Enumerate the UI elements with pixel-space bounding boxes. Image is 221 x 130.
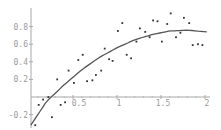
fit-curve — [31, 30, 207, 125]
data-point — [144, 31, 146, 33]
x-tick-label: 1.5 — [156, 99, 171, 108]
data-point — [82, 54, 84, 56]
data-point — [117, 30, 119, 32]
y-tick-label: 0.6 — [14, 40, 29, 49]
data-point — [73, 82, 75, 84]
data-point — [175, 36, 177, 38]
data-point — [197, 43, 199, 45]
data-point — [86, 80, 88, 82]
data-point — [38, 104, 40, 106]
data-point — [56, 79, 58, 81]
data-point — [188, 22, 190, 24]
data-point — [152, 20, 154, 22]
data-point — [34, 124, 36, 126]
data-point — [161, 41, 163, 43]
data-point — [77, 59, 79, 61]
data-point — [170, 13, 172, 15]
data-point — [149, 36, 151, 38]
data-point — [108, 58, 110, 60]
data-point — [104, 48, 106, 50]
x-tick-label: 2 — [205, 99, 210, 108]
data-point — [42, 99, 44, 101]
data-point — [92, 79, 94, 81]
data-point — [130, 57, 132, 59]
data-point — [139, 28, 141, 30]
chart-container: 0.511.52-0.20.20.40.60.8 — [0, 0, 221, 130]
data-point — [166, 23, 168, 25]
x-tick-label: 0.5 — [72, 99, 87, 108]
data-point — [136, 41, 138, 43]
data-point — [183, 17, 185, 19]
scatter-plot: 0.511.52-0.20.20.40.60.8 — [0, 0, 221, 130]
data-point — [180, 32, 182, 34]
data-point — [157, 20, 159, 22]
data-point — [68, 70, 70, 72]
axes — [29, 8, 210, 128]
data-point — [51, 116, 53, 118]
data-point — [48, 96, 50, 98]
data-point — [60, 104, 62, 106]
y-tick-label: 0.4 — [14, 58, 29, 67]
data-point — [126, 54, 128, 56]
y-tick-label: 0.2 — [14, 75, 29, 84]
data-point — [64, 101, 66, 103]
data-point — [192, 44, 194, 46]
y-tick-label: 0.8 — [14, 23, 29, 32]
data-point — [112, 60, 114, 62]
data-point — [100, 70, 102, 72]
x-tick-label: 1 — [117, 99, 122, 108]
data-point — [95, 74, 97, 76]
y-tick-label: -0.2 — [9, 111, 28, 120]
data-point — [121, 22, 123, 24]
data-points — [34, 13, 203, 127]
data-point — [202, 44, 204, 46]
